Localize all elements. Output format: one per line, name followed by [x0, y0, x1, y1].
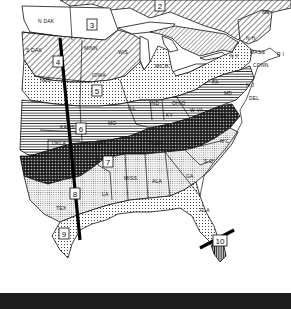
label-ill: ILL — [128, 105, 136, 111]
label-tex: TEX — [56, 205, 67, 211]
zone-8-marker: 8 — [70, 188, 80, 199]
zone-10-marker: 10 — [213, 235, 227, 246]
zone-2-marker: 2 — [155, 0, 165, 11]
label-neb: NEB — [40, 77, 51, 83]
label-la: LA — [102, 191, 109, 197]
svg-text:7: 7 — [106, 158, 111, 167]
label-me: ME — [262, 9, 270, 15]
label-s-c: S C — [204, 158, 213, 164]
zone-4-marker: 4 — [53, 56, 63, 67]
svg-text:2: 2 — [158, 2, 163, 11]
label-r-i: R I — [277, 51, 284, 57]
label-conn: CONN — [253, 62, 269, 68]
label-pa: PA — [212, 79, 219, 85]
zone-3-marker: 3 — [87, 19, 97, 30]
svg-text:3: 3 — [90, 21, 95, 30]
zone-9-marker: 9 — [59, 228, 69, 239]
label-iowa: IOWA — [92, 72, 106, 78]
label-mass: MASS — [250, 49, 265, 55]
label-tenn: TENN — [148, 140, 163, 146]
zone-6-marker: 6 — [76, 123, 86, 134]
label-ohio: OHIO — [172, 100, 186, 106]
label-wis: WIS — [118, 49, 129, 55]
label-md: MD — [224, 90, 232, 96]
zone-5-marker: 5 — [92, 85, 102, 96]
label-ark: ARK — [96, 139, 107, 145]
label-mo: MO — [108, 120, 116, 126]
label-va: VA — [220, 113, 227, 119]
label-okla: OKLA — [52, 140, 67, 146]
svg-text:6: 6 — [79, 125, 84, 134]
label-mich: MICH — [155, 63, 169, 69]
label-n-h: N H — [246, 35, 255, 41]
label-kans: KANS — [60, 124, 75, 130]
label-del: DEL — [249, 95, 259, 101]
bottom-dark-bar — [0, 293, 291, 309]
label-n-dak: N DAK — [38, 18, 55, 24]
label-ind: IND — [150, 100, 159, 106]
svg-text:8: 8 — [73, 190, 78, 199]
svg-text:5: 5 — [95, 87, 100, 96]
label-s-dak: S DAK — [26, 47, 42, 53]
label-n-c: N C — [220, 138, 229, 144]
label-fla: FLA — [200, 207, 210, 213]
label-ky: KY — [166, 112, 174, 118]
zone-7-marker: 7 — [103, 156, 113, 167]
label-n-y: N Y — [230, 53, 239, 59]
zone-map: N DAK S DAK NEB MINN WIS IOWA ILL IND OH… — [0, 0, 291, 293]
label-minn: MINN — [84, 45, 98, 51]
label-n-j: N J — [246, 82, 254, 88]
svg-text:9: 9 — [62, 230, 67, 239]
svg-text:10: 10 — [216, 237, 225, 246]
svg-text:4: 4 — [56, 58, 61, 67]
zone-4-region — [22, 30, 142, 82]
label-ga: GA — [186, 173, 194, 179]
label-ala: ALA — [152, 178, 163, 184]
label-miss: MISS — [124, 175, 137, 181]
label-w-va: W VA — [190, 107, 204, 113]
